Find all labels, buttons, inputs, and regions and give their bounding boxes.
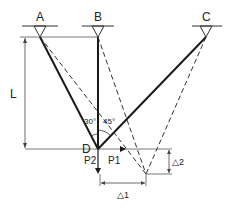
label-a: A	[36, 10, 44, 24]
dimension-dx-label: △1	[117, 190, 129, 200]
label-b: B	[94, 10, 102, 24]
label-d: D	[82, 142, 91, 156]
support-b	[82, 26, 114, 37]
dimension-dy-label: △2	[172, 157, 184, 167]
angle-45-label: 45°	[103, 117, 115, 126]
member-ad	[40, 37, 98, 149]
load-p2-arrow-icon	[95, 168, 101, 174]
dimension-l	[23, 38, 27, 148]
displaced-member-cd	[146, 37, 206, 174]
angle-arc-30	[91, 134, 98, 136]
load-p2-label: P2	[84, 155, 97, 166]
label-c: C	[202, 10, 211, 24]
dimension-dx	[101, 181, 145, 185]
dimension-l-label: L	[10, 87, 17, 101]
load-p1-label: P1	[108, 155, 121, 166]
displaced-members	[40, 37, 206, 174]
angle-30-label: 30°	[84, 117, 96, 126]
support-a	[22, 26, 58, 37]
displaced-member-ad	[40, 37, 146, 174]
dimension-dy	[167, 150, 171, 173]
angle-arc-45	[98, 130, 111, 136]
truss-diagram: A B C 30° 45° D P1 P2 L	[0, 0, 234, 208]
support-c	[192, 26, 222, 37]
